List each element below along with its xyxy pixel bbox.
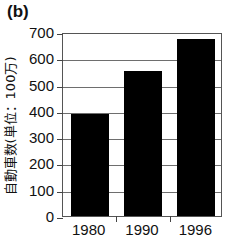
y-axis-tick-label: 700 <box>6 25 54 40</box>
y-axis-tick-label: 300 <box>6 130 54 145</box>
y-axis-tick-label: 100 <box>6 183 54 198</box>
y-axis-tick-label: 600 <box>6 51 54 66</box>
y-axis-tick <box>57 165 63 166</box>
y-axis-tick <box>57 87 63 88</box>
bar <box>177 39 215 216</box>
y-axis-tick <box>57 139 63 140</box>
x-axis-tick-label: 1980 <box>59 222 119 238</box>
plot-area <box>62 33 222 217</box>
y-axis-tick <box>57 113 63 114</box>
panel-label: (b) <box>7 2 29 22</box>
y-axis-tick <box>57 218 63 219</box>
x-axis-tick-label: 1990 <box>112 222 172 238</box>
y-axis-tick-label: 500 <box>6 78 54 93</box>
bar <box>71 114 109 217</box>
y-axis-tick <box>57 192 63 193</box>
y-axis-tick <box>57 60 63 61</box>
y-axis-tick-label: 400 <box>6 104 54 119</box>
x-axis-tick-label: 1996 <box>165 222 225 238</box>
y-axis-tick-label: 0 <box>6 209 54 224</box>
y-axis-tick-label: 200 <box>6 156 54 171</box>
y-axis-tick <box>57 34 63 35</box>
bar <box>124 71 162 216</box>
figure-panel-b: (b) 自動車数(単位：100万) 7006005004003002001000… <box>0 0 234 250</box>
